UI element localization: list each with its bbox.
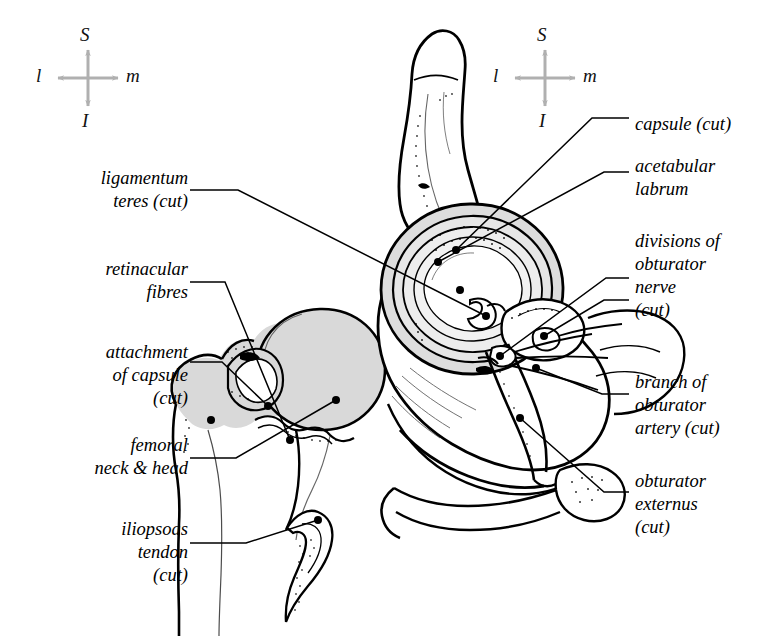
figure-canvas: S I l m S I l m ligamentum teres (cut) r… (0, 0, 775, 636)
compass-right-medial: m (583, 65, 597, 87)
femur-left-structure (172, 309, 385, 636)
label-capsule-cut: capsule (cut) (635, 113, 775, 136)
compass-left-lateral: l (36, 65, 41, 87)
compass-left-superior: S (80, 24, 90, 46)
compass-right-inferior: I (539, 110, 545, 132)
compass-left-inferior: I (82, 110, 88, 132)
compass-left-medial: m (126, 65, 140, 87)
label-attachment-of-capsule: attachment of capsule (cut) (18, 341, 188, 410)
compass-right-superior: S (537, 24, 547, 46)
label-femoral-neck-head: femoral neck & head (8, 434, 188, 480)
compass-right-lateral: l (493, 65, 498, 87)
label-ligamentum-teres: ligamentum teres (cut) (18, 167, 188, 213)
label-divisions-of-obturator-nerve: divisions of obturator nerve (cut) (635, 230, 775, 322)
label-retinacular-fibres: retinacular fibres (18, 258, 188, 304)
right-orientation-compass-arrows (515, 50, 575, 106)
left-orientation-compass-arrows (58, 50, 118, 106)
label-iliopsoas-tendon: iliopsoas tendon (cut) (18, 518, 188, 587)
label-branch-of-obturator-artery: branch of obturator artery (cut) (635, 371, 775, 440)
label-obturator-externus: obturator externus (cut) (635, 470, 775, 539)
label-acetabular-labrum: acetabular labrum (635, 155, 775, 201)
